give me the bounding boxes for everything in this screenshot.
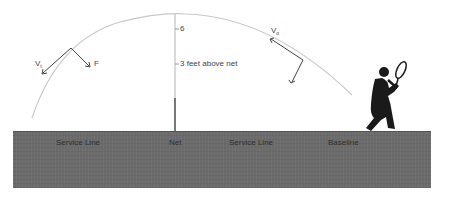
court-label-baseline: Baseline: [328, 138, 359, 147]
velocity-vector-right: [271, 39, 303, 60]
velocity-subscript: o: [276, 30, 279, 36]
force-label-left: F: [94, 59, 99, 68]
velocity-subscript: t: [40, 63, 41, 69]
height-label-3ft: 3 feet above net: [180, 59, 237, 68]
tennis-player-icon: [366, 60, 408, 131]
height-label-6: 6: [180, 24, 184, 33]
force-vector-left: [71, 48, 89, 66]
tennis-court: Service Line Net Service Line Baseline: [13, 131, 431, 188]
court-label-net: Net: [169, 138, 181, 147]
velocity-label-right: Vo: [271, 26, 279, 36]
velocity-vector-left: [43, 48, 71, 73]
tennis-trajectory-diagram: 6 3 feet above net Vt F Vo Service Line …: [0, 0, 449, 197]
court-label-service-line-left: Service Line: [56, 138, 100, 147]
velocity-label-left: Vt: [35, 59, 42, 69]
court-label-service-line-right: Service Line: [229, 138, 273, 147]
force-vector-right: [292, 60, 303, 82]
